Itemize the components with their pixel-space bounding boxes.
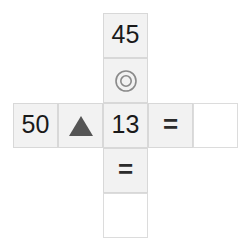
equals-sign: =: [118, 156, 133, 182]
puzzle-board: 45 50 13 = =: [0, 0, 243, 250]
cell-bottom-answer-input[interactable]: [103, 193, 148, 238]
cell-value-text: 45: [112, 22, 140, 47]
cell-left-operator: [58, 103, 103, 148]
cell-right-answer-input[interactable]: [193, 103, 238, 148]
concentric-circle-icon: [114, 69, 138, 93]
cell-left-value: 50: [13, 103, 58, 148]
cell-upper-operator: [103, 58, 148, 103]
cell-right-equals: =: [148, 103, 193, 148]
equals-sign: =: [163, 111, 178, 137]
cell-top-value: 45: [103, 13, 148, 58]
cell-value-text: 13: [112, 112, 140, 137]
cell-bottom-equals: =: [103, 148, 148, 193]
cell-value-text: 50: [22, 112, 50, 137]
cell-center-value: 13: [103, 103, 148, 148]
triangle-up-icon: [69, 116, 93, 136]
